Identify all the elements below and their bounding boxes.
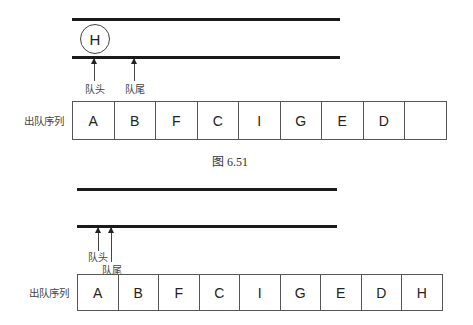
queue-bottom-border: [77, 225, 337, 228]
head-pointer-label: 队头: [85, 81, 105, 96]
sequence-cell: H: [402, 275, 443, 310]
queue-top-border: [77, 188, 337, 191]
sequence-cell: I: [239, 102, 281, 139]
tail-pointer-arrow-icon: [134, 59, 135, 81]
figure-caption: 图 6.51: [212, 152, 248, 170]
sequence-cell: F: [159, 275, 200, 310]
sequence-cell: D: [362, 275, 403, 310]
sequence-cell: G: [281, 275, 322, 310]
tail-pointer-label: 队尾: [125, 81, 145, 96]
sequence-cell: E: [322, 102, 364, 139]
sequence-cell: C: [200, 275, 241, 310]
head-pointer-arrow-icon: [94, 59, 95, 81]
sequence-cell: A: [78, 275, 119, 310]
sequence-cell: C: [198, 102, 240, 139]
queue-bottom-border: [72, 56, 340, 59]
tail-pointer-arrow-icon: [111, 228, 112, 262]
dequeue-sequence-label: 出队序列: [24, 113, 64, 128]
head-pointer-arrow-icon: [98, 228, 99, 251]
dequeue-sequence-row: A B F C I G E D H: [77, 274, 443, 311]
dequeue-sequence-label: 出队序列: [29, 285, 69, 300]
queue-element-node: H: [80, 24, 110, 54]
queue-top-border: [72, 18, 340, 21]
sequence-cell-empty: [405, 102, 447, 139]
sequence-cell: I: [240, 275, 281, 310]
sequence-cell: F: [156, 102, 198, 139]
sequence-cell: B: [119, 275, 160, 310]
sequence-cell: G: [281, 102, 323, 139]
sequence-cell: E: [321, 275, 362, 310]
sequence-cell: D: [364, 102, 406, 139]
sequence-cell: A: [73, 102, 115, 139]
dequeue-sequence-row: A B F C I G E D: [72, 101, 447, 140]
sequence-cell: B: [115, 102, 157, 139]
